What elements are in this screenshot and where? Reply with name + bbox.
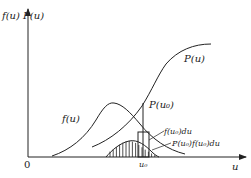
x-axis-label: u	[232, 161, 238, 172]
pdf-strip-label: f(u₀)du	[163, 127, 192, 136]
diagram: f(u) P(u) u 0 u₀ P(u) f(u) P(u₀) f(u₀)du…	[0, 0, 251, 178]
y-axis-label-f: f(u) P(u)	[1, 10, 44, 21]
pdf-label: f(u)	[61, 113, 80, 124]
u0-tick-label: u₀	[139, 160, 148, 169]
cdf-at-u0-label: P(u₀)	[148, 99, 174, 110]
origin-label: 0	[24, 159, 30, 170]
cdf-label: P(u)	[183, 53, 205, 64]
product-label: P(u₀)f(u₀)du	[171, 139, 220, 148]
